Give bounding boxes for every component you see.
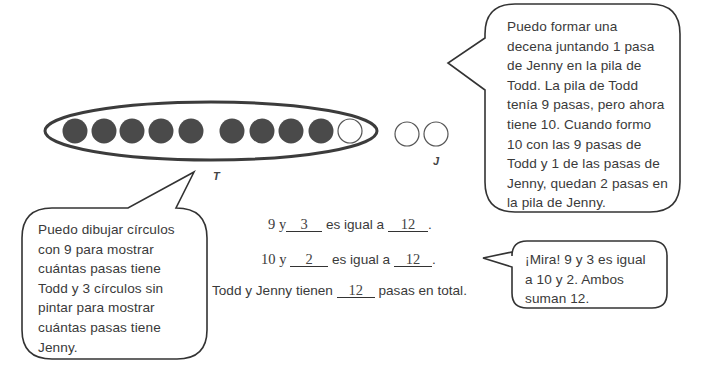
eq2-prefix: 10 y [261,251,286,267]
equation-line-1: 9 y3 es igual a 12. [268,215,432,234]
bubble-line: Puedo formar una [507,17,668,37]
eq1-prefix: 9 y [268,216,286,232]
raisin-filled [179,119,204,144]
eq2-blank-1: 2 [290,252,328,267]
bubble-line: a 10 y 2. Ambos [525,270,646,290]
eq1-suffix: . [428,217,432,232]
eq3-suffix: pasas en total. [378,283,466,298]
eq1-blank-1: 3 [286,217,322,232]
bubble-line: cuántas pasas tiene [38,318,175,338]
todd-raisins [63,119,334,144]
bubble-line: la pila de Jenny. [507,193,668,213]
raisin-open [338,119,362,143]
bubble-line: Todd. La pila de Todd [507,76,668,96]
raisin-filled [250,119,275,144]
bubble-line: pintar para mostrar [38,298,175,318]
bubble-line: decena juntando 1 pasa [507,37,668,57]
eq3-blank-1: 12 [337,283,375,298]
bubble-line: de Jenny en la pila de [507,56,668,76]
equation-line-2: 10 y 2 es igual a 12. [261,250,436,269]
eq2-suffix: . [432,252,436,267]
raisin-filled [149,119,174,144]
eq1-blank-2: 12 [388,217,428,232]
bubble-line: Jenny, quedan 2 pasas en [507,174,668,194]
bubble-line: Todd y 3 círculos sin [38,279,175,299]
bubble-bottom-left-text: Puedo dibujar círculos con 9 para mostra… [38,220,175,357]
bubble-line: Todd y 1 de las pasas de [507,154,668,174]
raisin-filled [220,119,245,144]
bubble-line: Jenny. [38,338,175,358]
raisin-open [395,122,419,146]
raisin-filled [309,119,334,144]
raisin-filled [63,119,88,144]
bubble-line: Puedo dibujar círculos [38,220,175,240]
eq2-blank-2: 12 [394,252,432,267]
equation-line-3: Todd y Jenny tienen 12 pasas en total. [212,282,467,300]
bubble-line: con 9 para mostrar [38,240,175,260]
raisin-filled [279,119,304,144]
eq1-middle: es igual a [326,217,384,232]
jenny-label: J [433,155,439,167]
bubble-line: 10 con las 9 pasas de [507,135,668,155]
bubble-line: tiene 10. Cuando formo [507,115,668,135]
raisin-filled [120,119,145,144]
bubble-line: tenía 9 pasas, pero ahora [507,95,668,115]
bubble-line: suman 12. [525,289,646,309]
todd-label: T [213,170,220,182]
raisin-filled [92,119,117,144]
eq3-prefix: Todd y Jenny tienen [212,283,333,298]
bubble-line: cuántas pasas tiene [38,259,175,279]
bubble-top-right-text: Puedo formar una decena juntando 1 pasa … [507,17,668,213]
eq2-middle: es igual a [332,252,390,267]
raisin-open [424,122,448,146]
bubble-bottom-right-text: ¡Mira! 9 y 3 es igual a 10 y 2. Ambos su… [525,250,646,309]
bubble-line: ¡Mira! 9 y 3 es igual [525,250,646,270]
